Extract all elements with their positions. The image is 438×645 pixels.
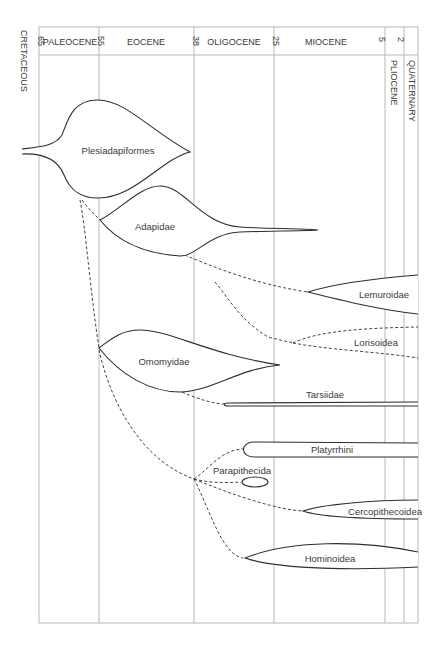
shape-tarsiidae [224, 402, 418, 406]
epoch-pliocene: PLIOCENE [389, 60, 399, 106]
label-lemuroidae: Lemuroidae [359, 289, 409, 300]
phylogeny-diagram: 65 55 38 25 5 2 PALEOCENE EOCENE OLIGOCE… [0, 0, 438, 645]
epoch-miocene: MIOCENE [305, 37, 347, 47]
label-omomyidae: Omomyidae [138, 356, 189, 367]
label-plesiadapiformes: Plesiadapiformes [82, 145, 155, 156]
label-hominoidea: Hominoidea [305, 553, 356, 564]
epoch-paleocene: PALEOCENE [43, 37, 97, 47]
tick-38: 38 [191, 36, 201, 46]
shape-adapidae [100, 186, 318, 256]
taxa-shapes [22, 100, 418, 569]
tick-5: 5 [377, 37, 387, 42]
connector-adapidae-lemuroidae [180, 253, 308, 292]
epoch-cretaceous: CRETACEOUS [19, 30, 29, 92]
label-lorisoidea: Lorisoidea [354, 337, 399, 348]
connector-omomyidae-tarsiidae [182, 392, 225, 404]
epoch-oligocene: OLIGOCENE [207, 37, 261, 47]
tick-2: 2 [396, 37, 406, 42]
label-parapithecida: Parapithecida [213, 465, 272, 476]
tick-25: 25 [271, 36, 281, 46]
label-platyrrhini: Platyrrhini [311, 444, 353, 455]
label-tarsiidae: Tarsiidae [306, 389, 344, 400]
epoch-quaternary: QUATERNARY [407, 60, 417, 122]
label-cercopithecoidea: Cercopithecoidea [348, 506, 423, 517]
label-adapidae: Adapidae [135, 221, 175, 232]
connector-lorisoidea-origin [215, 282, 293, 343]
connector-plesiadapiformes-adapidae [82, 200, 100, 220]
epoch-eocene: EOCENE [127, 37, 165, 47]
tick-55: 55 [96, 36, 106, 46]
connector-plesiadapiformes-omomyidae [80, 200, 99, 348]
shape-parapithecida [242, 477, 268, 487]
connector-hominoidea [194, 479, 243, 558]
